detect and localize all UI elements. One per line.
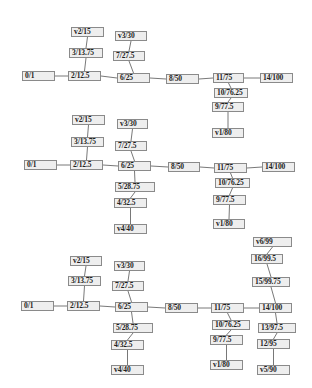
tree-node: 8/50 [166,74,199,84]
edge [85,58,87,71]
tree-node: v1/80 [213,219,245,229]
tree-node: 5/28.75 [113,323,153,333]
edge [199,78,213,79]
tree-node: 4/32.5 [114,198,147,208]
tree-node: 5/28.75 [115,182,155,192]
tree-node: v1/80 [210,360,243,370]
tree-node: 13/97.5 [258,323,296,333]
tree-node: 14/100 [259,303,292,313]
tree-node: 0/1 [21,301,54,311]
tree-node: 4/32.5 [111,340,144,350]
tree-node: 2/12.5 [70,160,103,170]
edge [128,333,134,340]
tree-node: 11/75 [211,303,244,313]
tree-node: 6/25 [117,73,150,83]
tree-node: 7/27.5 [112,281,144,291]
edge [151,166,168,167]
edge [129,41,131,51]
tree-node: 11/75 [213,73,244,83]
edge [271,287,276,303]
edge [200,167,214,168]
edge [101,76,117,78]
edge [132,312,134,323]
edge [85,266,87,276]
tree-node: 2/12.5 [67,301,100,311]
tree-node: v3/30 [117,119,148,129]
tree-node: 14/100 [260,73,293,83]
tree-node: 11/75 [214,163,247,173]
tree-node: 2/12.5 [68,71,101,81]
edge [84,286,85,301]
edge [103,165,118,166]
tree-node: 3/13.75 [69,48,103,58]
tree-node: 10/76.25 [212,320,250,330]
tree-node: v4/40 [111,365,144,375]
tree-node: 9/77.5 [212,102,244,112]
tree-node: v2/15 [71,27,104,37]
tree-node: v2/15 [72,115,105,125]
edge [131,151,135,161]
tree-node: 8/50 [165,303,198,313]
tree-node: 10/76.25 [214,88,248,98]
tree-node: 8/50 [168,162,200,172]
edge [148,307,165,308]
edge [100,306,115,307]
edge [131,129,133,141]
edge [276,313,278,323]
tree-node: 15/99.75 [252,277,290,287]
tree-node: 10/76.25 [215,178,250,188]
edge [129,61,134,73]
tree-node: 3/13.75 [68,276,101,286]
tree-node: 6/25 [115,302,148,312]
tree-node: 9/77.5 [213,195,246,205]
edge [228,313,232,320]
tree-node: 0/1 [24,160,57,170]
tree-diagram-canvas: 0/12/12.53/13.75v2/156/257/27.5v3/308/50… [0,0,312,388]
edge [229,205,230,219]
tree-node: 0/1 [22,71,55,81]
tree-node: v5/90 [257,365,290,375]
edge [128,291,132,302]
tree-node: 3/13.75 [71,137,104,147]
tree-node: 7/27.5 [113,51,145,61]
edge [230,188,233,195]
tree-node: 16/99.5 [251,254,283,264]
tree-node: v6/99 [253,237,292,247]
edge [247,167,262,168]
tree-node: 14/100 [262,162,295,172]
edge [150,78,166,79]
tree-node: 9/77.5 [210,335,243,345]
tree-node: v1/80 [212,128,244,138]
tree-node: v3/30 [115,31,147,41]
edge [87,147,88,160]
edge [267,247,273,254]
tree-node: v2/15 [70,256,102,266]
edge [88,125,89,137]
tree-node: 7/27.5 [115,141,147,151]
tree-node: 6/25 [118,161,151,171]
edge [128,271,130,281]
edge [86,37,88,48]
tree-node: v3/30 [114,261,145,271]
tree-node: 12/95 [257,339,290,349]
tree-node: v4/40 [114,224,147,234]
edge [267,264,271,277]
edge [135,171,136,182]
